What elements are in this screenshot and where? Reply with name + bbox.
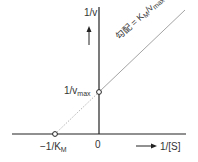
x-axis-label: 1/[S] (160, 142, 181, 152)
x-arrowhead-icon (151, 144, 157, 149)
y-intercept-point (97, 90, 102, 95)
y-axis-label: 1/v (84, 8, 97, 18)
y-intercept-main: 1/v (64, 85, 77, 96)
x-intercept-main: −1/K (40, 141, 61, 152)
x-intercept-sub: M (61, 146, 67, 153)
x-intercept-label: −1/KM (40, 142, 67, 153)
plot-canvas (0, 0, 198, 162)
extrapolation-line (55, 92, 99, 134)
x-intercept-point (53, 132, 58, 137)
origin-label: 0 (95, 140, 101, 150)
y-intercept-label: 1/vmax (64, 86, 91, 97)
y-arrowhead-icon (87, 26, 92, 32)
y-intercept-sub: max (77, 90, 90, 97)
